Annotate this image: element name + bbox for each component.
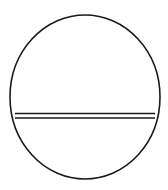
diagram-canvas <box>0 0 168 190</box>
circle-with-chord-diagram <box>0 0 168 190</box>
circle-outline <box>10 15 160 179</box>
